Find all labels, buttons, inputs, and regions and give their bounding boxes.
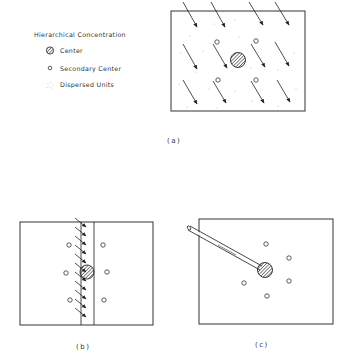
center-node xyxy=(231,53,246,68)
transport-corridor xyxy=(187,225,262,270)
panel-c-caption: (c) xyxy=(255,341,269,349)
center-node xyxy=(258,263,273,278)
hatched-circle-icon xyxy=(46,47,53,54)
legend-label-secondary-center: Secondary Center xyxy=(60,65,121,73)
center-node xyxy=(80,265,94,279)
panel-b: (b) xyxy=(20,218,153,351)
panel-a-caption: (a) xyxy=(167,137,181,145)
legend-label-center: Center xyxy=(60,47,83,54)
legend: Hierarchical Concentration Center Second… xyxy=(34,31,126,89)
panel-c: (c) xyxy=(187,219,333,349)
legend-item-center: Center xyxy=(46,47,83,54)
panel-b-caption: (b) xyxy=(76,343,90,351)
panel-a: (a) xyxy=(167,2,305,145)
legend-title: Hierarchical Concentration xyxy=(34,31,126,38)
legend-label-dispersed-units: Dispersed Units xyxy=(60,81,114,89)
legend-item-secondary-center: Secondary Center xyxy=(48,65,121,73)
legend-item-dispersed-units: Dispersed Units xyxy=(47,81,115,89)
open-circle-icon xyxy=(48,66,52,70)
dot-cluster-icon xyxy=(47,82,54,88)
figure-canvas: Hierarchical Concentration Center Second… xyxy=(0,0,341,358)
